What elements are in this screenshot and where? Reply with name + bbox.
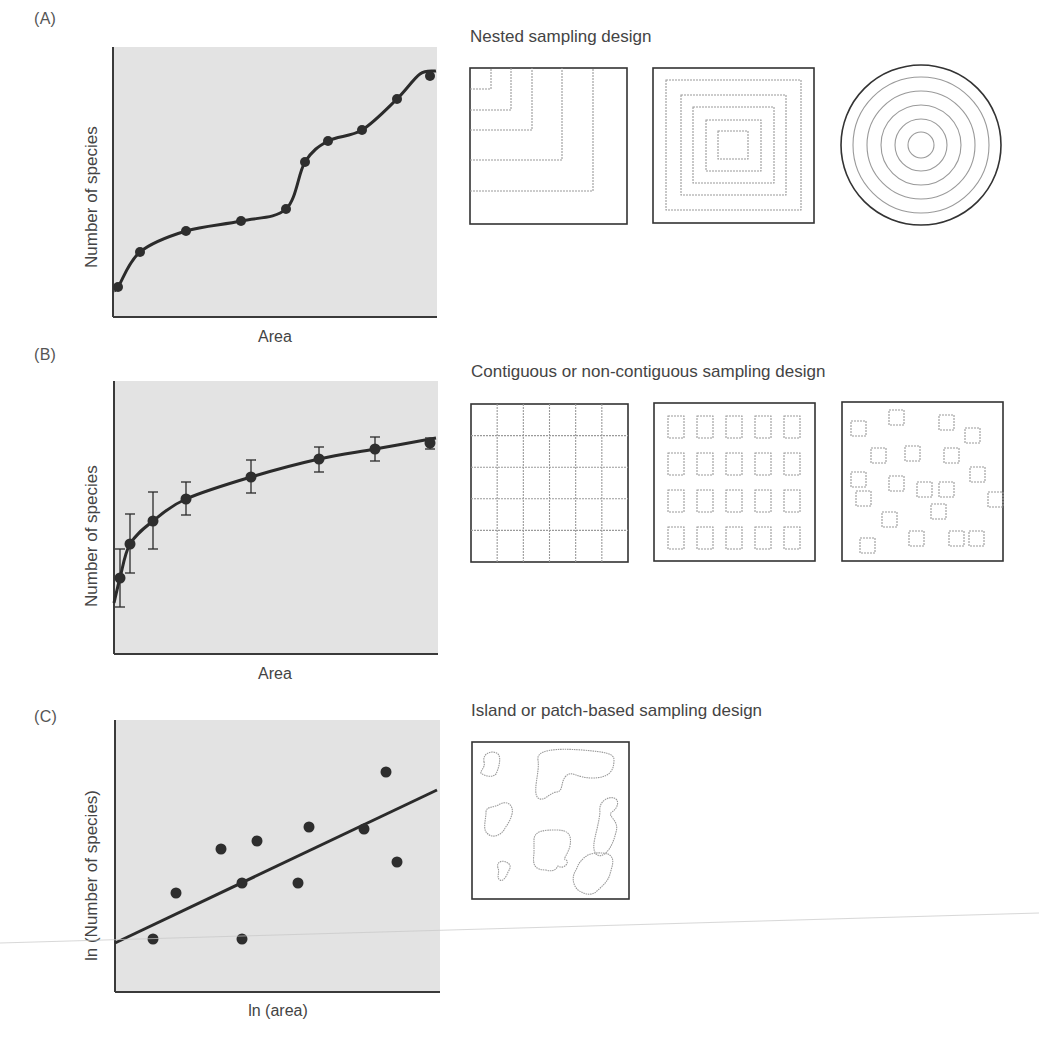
scan-artifact-stroke xyxy=(0,913,1039,943)
scan-artifact-line xyxy=(0,0,1039,1038)
